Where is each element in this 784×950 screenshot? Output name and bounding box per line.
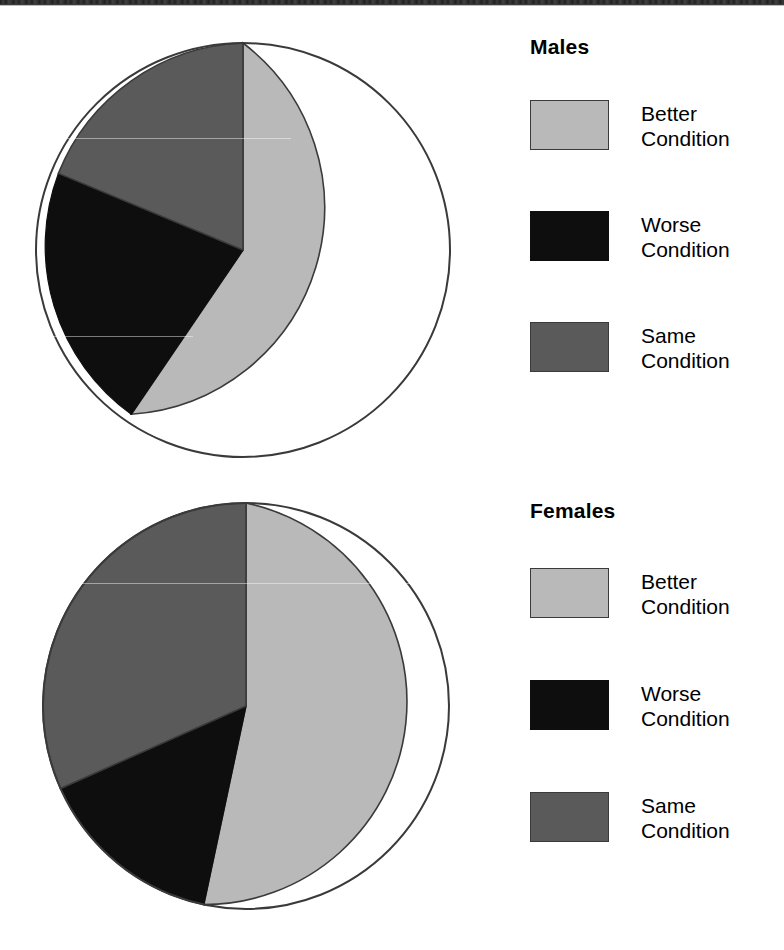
legend-swatch-better-icon — [530, 100, 609, 150]
legend-swatch-same-icon — [530, 322, 609, 372]
males-pie-wrap — [33, 40, 453, 460]
females-legend-item-better[interactable]: Better Condition — [530, 568, 730, 619]
males-legend-label-same: Same Condition — [641, 322, 730, 373]
males-pie-chart — [33, 40, 453, 460]
legend-swatch-better-icon — [530, 568, 609, 618]
males-legend: Males Better Condition Worse Condition S… — [530, 36, 784, 436]
legend-swatch-worse-icon — [530, 680, 609, 730]
females-legend-label-same: Same Condition — [641, 792, 730, 843]
males-legend-label-worse: Worse Condition — [641, 211, 730, 262]
females-legend-item-worse[interactable]: Worse Condition — [530, 680, 730, 731]
males-legend-label-better: Better Condition — [641, 100, 730, 151]
males-legend-item-worse[interactable]: Worse Condition — [530, 211, 730, 262]
females-legend-label-worse: Worse Condition — [641, 680, 730, 731]
females-legend-label-better: Better Condition — [641, 568, 730, 619]
males-legend-title: Males — [530, 36, 784, 58]
legend-swatch-same-icon — [530, 792, 609, 842]
females-pie-chart — [41, 501, 451, 911]
legend-swatch-worse-icon — [530, 211, 609, 261]
females-chart-block: Females Better Condition Worse Condition… — [0, 470, 784, 950]
males-chart-block: Males Better Condition Worse Condition S… — [0, 0, 784, 470]
females-legend: Females Better Condition Worse Condition… — [530, 500, 784, 910]
males-legend-item-same[interactable]: Same Condition — [530, 322, 730, 373]
males-legend-item-better[interactable]: Better Condition — [530, 100, 730, 151]
figure-page: Males Better Condition Worse Condition S… — [0, 0, 784, 950]
females-legend-title: Females — [530, 500, 784, 522]
females-pie-wrap — [41, 501, 451, 911]
females-legend-item-same[interactable]: Same Condition — [530, 792, 730, 843]
